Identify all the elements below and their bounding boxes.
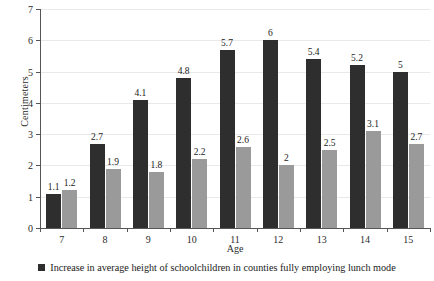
y-tick-mark	[36, 72, 40, 73]
bar-value-label: 1.1	[48, 182, 60, 192]
x-tick-mark	[40, 228, 41, 232]
y-tick-mark	[36, 134, 40, 135]
bar-value-label: 5.2	[351, 53, 363, 63]
x-tick-mark	[127, 228, 128, 232]
bar-value-label: 5.7	[221, 38, 233, 48]
bar	[220, 50, 235, 228]
bar-value-label: 5	[398, 60, 403, 70]
bar-value-label: 2.2	[194, 147, 206, 157]
x-tick-mark	[387, 228, 388, 232]
bar-value-label: 2.7	[91, 132, 103, 142]
chart-legend: Increase in average height of schoolchil…	[0, 262, 434, 273]
bar	[236, 147, 251, 228]
y-tick-label: 1	[28, 191, 33, 202]
bar	[176, 78, 191, 228]
y-tick-label: 2	[28, 160, 33, 171]
x-tick-mark	[300, 228, 301, 232]
bar	[393, 72, 408, 228]
bar	[366, 131, 381, 228]
y-tick-label: 3	[28, 129, 33, 140]
bar-chart: Centimeters 01234567 789101112131415 1.1…	[0, 0, 434, 281]
y-axis-line	[40, 9, 41, 228]
bar	[279, 165, 294, 228]
x-tick-mark	[170, 228, 171, 232]
plot-area: 01234567 789101112131415 1.11.22.71.94.1…	[40, 9, 430, 228]
x-tick-mark	[213, 228, 214, 232]
x-tick-mark	[83, 228, 84, 232]
x-tick-mark	[257, 228, 258, 232]
gridline	[41, 72, 430, 73]
bar-value-label: 4.8	[178, 66, 190, 76]
bar	[306, 59, 321, 228]
bar-value-label: 3.1	[367, 119, 379, 129]
bar	[192, 159, 207, 228]
gridline	[41, 9, 430, 10]
x-tick-mark	[430, 228, 431, 232]
y-tick-mark	[36, 103, 40, 104]
legend-item-label: Increase in average height of schoolchil…	[50, 262, 395, 273]
bar-value-label: 2.7	[410, 132, 422, 142]
y-tick-label: 6	[28, 35, 33, 46]
bar	[409, 144, 424, 228]
bar-value-label: 1.2	[64, 178, 76, 188]
bar-value-label: 5.4	[308, 47, 320, 57]
bar-value-label: 2	[284, 153, 289, 163]
gridline	[41, 40, 430, 41]
y-tick-mark	[36, 40, 40, 41]
bar	[62, 190, 77, 228]
y-tick-mark	[36, 197, 40, 198]
x-tick-mark	[343, 228, 344, 232]
y-tick-mark	[36, 165, 40, 166]
y-tick-mark	[36, 9, 40, 10]
bar	[263, 40, 278, 228]
bar-value-label: 2.6	[237, 135, 249, 145]
bar	[106, 169, 121, 228]
bar	[90, 144, 105, 228]
bar-value-label: 4.1	[134, 88, 146, 98]
y-tick-label: 0	[28, 223, 33, 234]
bar	[350, 65, 365, 228]
bar	[133, 100, 148, 228]
y-tick-label: 5	[28, 66, 33, 77]
y-tick-label: 4	[28, 97, 33, 108]
bar-value-label: 6	[268, 28, 273, 38]
gridline	[41, 103, 430, 104]
bar	[322, 150, 337, 228]
x-axis-title: Age	[40, 243, 430, 254]
bar-value-label: 2.5	[324, 138, 336, 148]
x-axis-line	[40, 228, 430, 229]
bar	[46, 194, 61, 228]
dark-square-marker-icon	[38, 264, 45, 271]
bar	[149, 172, 164, 228]
bar-value-label: 1.9	[107, 157, 119, 167]
y-tick-label: 7	[28, 4, 33, 15]
bar-value-label: 1.8	[150, 160, 162, 170]
